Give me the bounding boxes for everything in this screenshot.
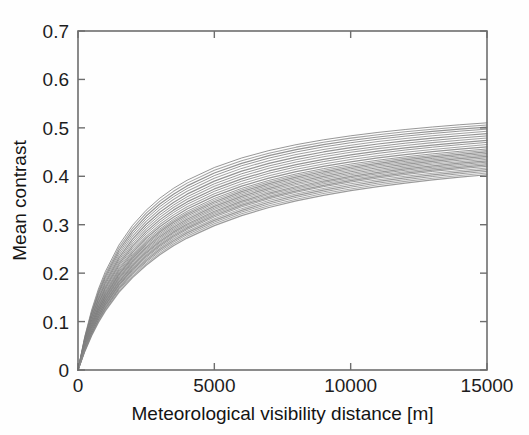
- x-tick-label-2: 10000: [324, 375, 377, 396]
- data-curve-curve-30: [78, 175, 487, 370]
- y-tick-label-7: 0.7: [43, 21, 69, 42]
- x-axis-title: Meteorological visibility distance [m]: [131, 403, 433, 424]
- chart-figure: 05000100001500000.10.20.30.40.50.60.7 Me…: [0, 0, 529, 435]
- x-tick-label-3: 15000: [461, 375, 514, 396]
- y-tick-label-2: 0.2: [43, 263, 69, 284]
- x-tick-label-1: 5000: [193, 375, 235, 396]
- chart-canvas: 05000100001500000.10.20.30.40.50.60.7 Me…: [0, 0, 529, 435]
- y-tick-label-3: 0.3: [43, 215, 69, 236]
- y-tick-label-1: 0.1: [43, 312, 69, 333]
- y-axis-title: Mean contrast: [9, 140, 30, 261]
- curve-group: [78, 123, 487, 370]
- y-tick-label-4: 0.4: [43, 166, 70, 187]
- tick-labels: 05000100001500000.10.20.30.40.50.60.7: [43, 21, 514, 396]
- x-tick-label-0: 0: [73, 375, 84, 396]
- y-tick-label-5: 0.5: [43, 118, 69, 139]
- y-tick-label-6: 0.6: [43, 69, 69, 90]
- y-tick-label-0: 0: [58, 360, 69, 381]
